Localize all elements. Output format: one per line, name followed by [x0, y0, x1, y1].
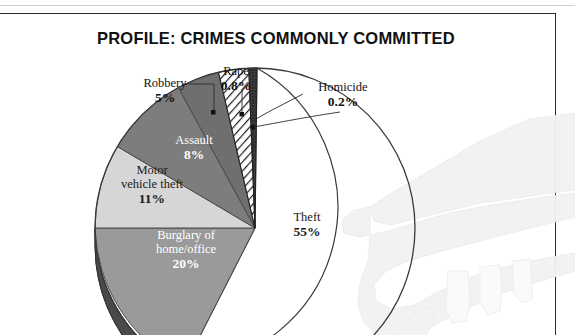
- slice-label-burglary: Burglary of home/office 20%: [130, 228, 242, 271]
- slice-label-theft: Theft 55%: [272, 210, 342, 239]
- scanned-page: PROFILE: CRIMES COMMONLY COMMITTED: [0, 0, 575, 335]
- slice-label-motor-vehicle-theft-line2: vehicle theft: [104, 177, 200, 191]
- slice-label-homicide: Homicide 0.2%: [300, 80, 386, 109]
- slice-label-motor-vehicle-theft-line1: Motor: [104, 163, 200, 177]
- slice-label-assault-name: Assault: [158, 133, 230, 147]
- pie-chart: [0, 0, 575, 335]
- slice-label-rape-name: Rape: [205, 64, 267, 78]
- slice-label-burglary-line1: Burglary of: [130, 228, 242, 242]
- slice-label-motor-vehicle-theft-percent: 11%: [104, 191, 200, 206]
- slice-label-robbery-name: Robbery: [128, 76, 202, 90]
- slice-label-theft-name: Theft: [272, 210, 342, 224]
- slice-label-burglary-percent: 20%: [130, 256, 242, 271]
- slice-label-homicide-percent: 0.2%: [300, 94, 386, 109]
- slice-label-rape-percent: 0.8%: [205, 78, 267, 93]
- marker-rape: [240, 112, 245, 117]
- slice-label-theft-percent: 55%: [272, 224, 342, 239]
- slice-label-homicide-name: Homicide: [300, 80, 386, 94]
- slice-label-burglary-line2: home/office: [130, 242, 242, 256]
- marker-homicide: [251, 125, 256, 130]
- slice-label-assault: Assault 8%: [158, 133, 230, 162]
- slice-label-robbery: Robbery 5%: [128, 76, 202, 105]
- slice-label-rape: Rape 0.8%: [205, 64, 267, 93]
- marker-robbery: [211, 110, 216, 115]
- slice-label-robbery-percent: 5%: [128, 90, 202, 105]
- slice-label-assault-percent: 8%: [158, 147, 230, 162]
- slice-label-motor-vehicle-theft: Motor vehicle theft 11%: [104, 163, 200, 206]
